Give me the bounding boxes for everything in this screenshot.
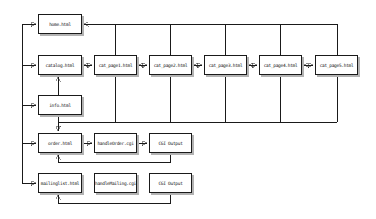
node-cgi-output-mailing: CGI Output	[149, 173, 192, 193]
node-order-html: order.html	[38, 133, 82, 153]
node-cat-page2-html: cat_page2.html	[149, 55, 192, 75]
node-catalog-html: catalog.html	[38, 55, 82, 75]
site-structure-diagram: home.html catalog.html cat_page1.html ca…	[0, 0, 376, 219]
node-home-html: home.html	[38, 14, 82, 34]
node-cat-page4-html: cat_page4.html	[259, 55, 302, 75]
node-mailinglist-html: mailinglist.html	[38, 173, 82, 193]
node-cgi-output-order: CGI Output	[149, 133, 192, 153]
order-feedback-loop	[58, 153, 170, 162]
node-cat-page1-html: cat_page1.html	[94, 55, 137, 75]
node-cat-page5-html: cat_page5.html	[315, 55, 358, 75]
node-handlemailing-cgi: handleMailing.cgi	[94, 173, 137, 193]
node-cat-page3-html: cat_page3.html	[204, 55, 247, 75]
node-info-html: info.html	[38, 95, 82, 115]
mailing-feedback-loop	[58, 193, 170, 203]
node-handleorder-cgi: handleOrder.cgi	[94, 133, 137, 153]
home-return-rail	[83, 24, 337, 55]
